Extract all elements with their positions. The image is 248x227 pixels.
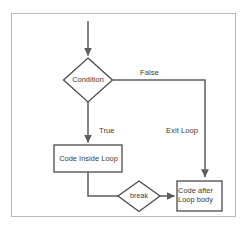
- node-code-after-loop-body-label: Code after Loop body: [178, 186, 222, 204]
- edge-label-true: True: [99, 126, 115, 135]
- edge-loop-to-break: [88, 172, 118, 196]
- node-break-label: break: [118, 192, 160, 201]
- flowchart-screenshot: Condition Code Inside Loop break Code af…: [0, 0, 248, 227]
- edge-label-exit-loop: Exit Loop: [166, 126, 198, 135]
- node-condition-label: Condition: [63, 75, 113, 84]
- node-code-inside-loop-label: Code Inside Loop: [55, 154, 122, 163]
- edge-label-false: False: [140, 68, 159, 77]
